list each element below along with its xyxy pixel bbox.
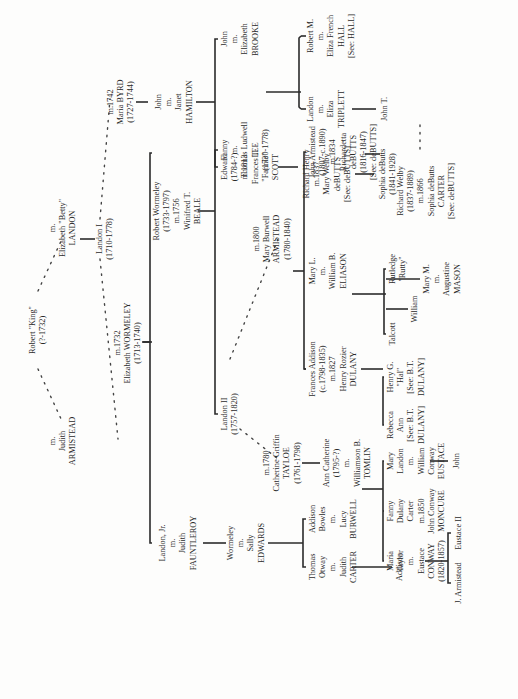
person-elizabeth-wormeley: m.1732Elizabeth WORMELEY(1713-1740)	[113, 302, 144, 383]
person-john-armistead: John Armistead(1807-c.1890)m.1834Richard…	[308, 124, 379, 180]
person-landon-i: Landon I(1710-1778)	[95, 218, 115, 259]
person-fanny-lee: Fannym.Thomas LudwellLEE(1730-1778)	[220, 122, 271, 178]
person-henry-g: Henry G."Hal"[See: B.T.DULANY]	[386, 358, 427, 396]
person-john-brooke: Johnm.ElizabethBROOKE	[220, 22, 261, 56]
person-william: William	[410, 296, 420, 323]
person-fanny-moncure: FannyDulanyCarterm.1850John ConwayMONCUR…	[386, 488, 447, 533]
person-mary-landon-eustace: MaryLandonm.WilliamConwayEUSTACE	[386, 443, 447, 480]
person-wormeley-edwards: Wormeleym.SallyEDWARDS	[226, 523, 267, 563]
person-catherine-tayloe: m.1780Catherine GriffinTAYLOE(1761-1798)	[262, 434, 303, 491]
person-addison-burwell: AddisonBowlesm.LucyBURWELL	[308, 499, 359, 539]
person-elizabeth-landon: m.Elizabeth "Betty"LANDON	[48, 199, 79, 257]
person-rutledge: Rutledge"Rutty"	[388, 254, 408, 284]
person-robert-king: Robert "King"(?-1732)	[28, 306, 48, 354]
person-j-armistead: J. Armistead	[454, 562, 464, 603]
person-landon-jr: Landon, Jr.m.JudithFAUNTLEROY	[158, 516, 199, 571]
person-talcott: Talcott	[388, 323, 398, 346]
person-landon-ii: Landon II(1757-1820)	[220, 393, 240, 434]
person-ann-catherine: Ann Catherine(1795-?)m.Williamson B.TOML…	[322, 439, 373, 488]
person-frances-addison: Frances Addison(c.1798-1835)m.1827Henry …	[308, 341, 359, 397]
person-landon-triplett: Landonm.ElizaTRIPLETT	[306, 90, 347, 128]
person-john: John	[452, 453, 462, 469]
person-mary-m-mason: Mary M.m.AugustineMASON	[422, 262, 463, 296]
person-mary-burwell-armistead: m.1800Mary BurwellARMISTEAD(1780-1840)	[252, 215, 293, 263]
family-tree-diagram: Robert "King"(?-1732) m.JudithARMISTEAD …	[0, 0, 518, 699]
person-thomas-carter: ThomasOtwaym.JudithCARTER	[308, 551, 359, 583]
person-rebecca-ann: RebeccaAnn[See: B.T.DULANY]	[386, 406, 427, 444]
person-robert-m-hall: Robert M.m.Eliza FrenchHALL[See: HALL]	[306, 14, 357, 58]
person-eustace-ii: Eustace II	[454, 516, 464, 549]
person-richard-welby: Richard Welby(1837-1889)m.1866Sophia deB…	[396, 163, 457, 219]
tree-connectors	[0, 0, 518, 699]
person-john-t: John T.	[380, 97, 390, 121]
person-maria-taylor: MariaTaylorm.EustaceCONWAY(1820-1857)	[386, 540, 447, 581]
person-mary-l-eliason: Mary L.m.William B.ELIASON	[308, 253, 349, 290]
person-maria-byrd: m.1742Maria BYRD(1727-1744)	[106, 80, 137, 125]
person-robert-wormeley: Robert Wormeley(1733-1797)m.1756Winifred…	[152, 182, 203, 241]
person-john-hamilton: Johnm.JanetHAMILTON	[154, 80, 195, 123]
person-judith-armistead: m.JudithARMISTEAD	[48, 417, 79, 465]
